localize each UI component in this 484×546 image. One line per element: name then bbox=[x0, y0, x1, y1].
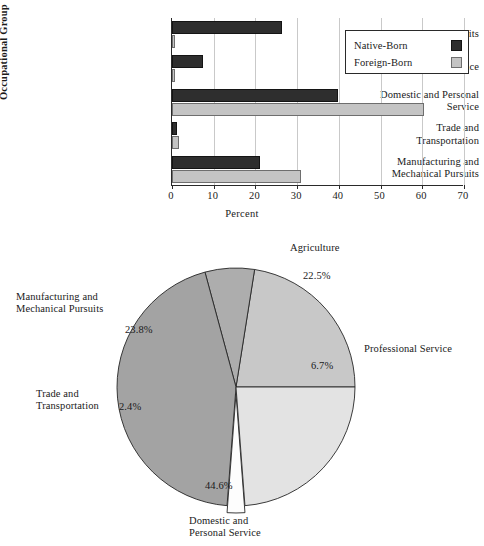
gridline bbox=[339, 18, 340, 185]
pie-label-line: Trade and bbox=[36, 388, 99, 400]
x-tick-label: 40 bbox=[332, 190, 343, 201]
pie-label-trade-and-transportation: Trade andTransportation bbox=[36, 388, 99, 413]
x-tick-label: 60 bbox=[416, 190, 427, 201]
pie-label-line: Transportation bbox=[36, 400, 99, 412]
figure-root: Occupational Group Agricultural Pursuits… bbox=[0, 0, 484, 546]
x-tick-label: 10 bbox=[207, 190, 218, 201]
pie-label-agriculture: Agriculture bbox=[290, 242, 340, 254]
pie-slice bbox=[236, 387, 355, 506]
pie-value-domestic-and-personal-service: 44.6% bbox=[205, 480, 233, 491]
bar-chart-x-axis-title: Percent bbox=[0, 208, 484, 219]
pie-label-line: Manufacturing and bbox=[16, 291, 103, 303]
x-tick-mark bbox=[214, 185, 215, 189]
x-tick-mark bbox=[381, 185, 382, 189]
legend-swatch-native-born bbox=[451, 40, 462, 51]
bar-native-born bbox=[172, 122, 177, 135]
x-tick-label: 20 bbox=[249, 190, 260, 201]
legend-label-native-born: Native-Born bbox=[354, 40, 408, 51]
bar-foreign-born bbox=[172, 35, 175, 48]
x-tick-mark bbox=[255, 185, 256, 189]
bar-chart-legend: Native-Born Foreign-Born bbox=[345, 30, 469, 74]
x-tick-label: 0 bbox=[168, 190, 173, 201]
x-tick-label: 30 bbox=[291, 190, 302, 201]
pie-value-professional-service: 6.7% bbox=[311, 360, 333, 371]
legend-row-native-born: Native-Born bbox=[354, 37, 462, 53]
bar-native-born bbox=[172, 89, 338, 102]
pie-label-line: Personal Service bbox=[189, 527, 261, 539]
pie-label-professional-service: Professional Service bbox=[364, 343, 452, 355]
pie-chart: Agriculture22.5%Professional Service6.7%… bbox=[0, 232, 484, 546]
bar-native-born bbox=[172, 156, 260, 169]
x-tick-label: 70 bbox=[458, 190, 469, 201]
legend-label-foreign-born: Foreign-Born bbox=[354, 57, 412, 68]
pie-label-line: Professional Service bbox=[364, 343, 452, 355]
x-tick-mark bbox=[297, 185, 298, 189]
bar-native-born bbox=[172, 21, 282, 34]
pie-value-trade-and-transportation: 2.4% bbox=[119, 401, 141, 412]
pie-value-agriculture: 22.5% bbox=[303, 270, 331, 281]
bar-chart: Occupational Group Agricultural Pursuits… bbox=[0, 0, 484, 232]
x-tick-mark bbox=[172, 185, 173, 189]
legend-swatch-foreign-born bbox=[451, 57, 462, 68]
bar-foreign-born bbox=[172, 136, 179, 149]
pie-label-domestic-and-personal-service: Domestic andPersonal Service bbox=[189, 515, 261, 540]
bar-foreign-born bbox=[172, 103, 424, 116]
bar-chart-y-axis-title: Occupational Group bbox=[0, 4, 9, 100]
bar-foreign-born bbox=[172, 69, 175, 82]
pie-label-line: Agriculture bbox=[290, 242, 340, 254]
x-tick-mark bbox=[339, 185, 340, 189]
x-tick-label: 50 bbox=[374, 190, 385, 201]
pie-slice bbox=[236, 269, 355, 387]
bar-foreign-born bbox=[172, 170, 301, 183]
pie-label-line: Mechanical Pursuits bbox=[16, 303, 103, 315]
x-tick-mark bbox=[422, 185, 423, 189]
pie-label-manufacturing-and-mechanical-pursuits: Manufacturing andMechanical Pursuits bbox=[16, 291, 103, 316]
bar-native-born bbox=[172, 55, 203, 68]
pie-value-manufacturing-and-mechanical-pursuits: 23.8% bbox=[125, 324, 153, 335]
legend-row-foreign-born: Foreign-Born bbox=[354, 54, 462, 70]
pie-label-line: Domestic and bbox=[189, 515, 261, 527]
gridline bbox=[297, 18, 298, 185]
x-tick-mark bbox=[464, 185, 465, 189]
